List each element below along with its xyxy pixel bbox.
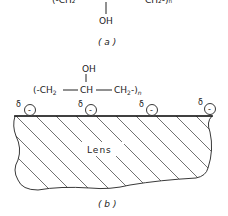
- svg-text:-: -: [208, 105, 211, 114]
- charge-4: δ -: [198, 98, 216, 115]
- caption-b: ( b ): [98, 199, 116, 209]
- formula-a-partial: (-CH₂: [52, 0, 76, 5]
- formula-a-partial-right: CH₂-)ₙ: [145, 0, 172, 5]
- polymer-formula: (-CH2 CH CH2-)n: [33, 85, 142, 96]
- charge-3: δ -: [139, 100, 158, 116]
- surface-charges: δ - δ - δ - δ -: [16, 98, 216, 116]
- formula-open: (-CH2: [33, 85, 57, 96]
- svg-text:-: -: [89, 106, 92, 115]
- svg-text:δ: δ: [16, 100, 21, 109]
- svg-text:-: -: [28, 106, 31, 115]
- svg-text:δ: δ: [139, 100, 144, 109]
- formula-ch: CH: [80, 85, 93, 95]
- formula-close: CH2-)n: [114, 85, 142, 96]
- charge-2: δ -: [78, 100, 97, 116]
- charge-1: δ -: [16, 100, 36, 116]
- polymer-lens-diagram: (-CH₂ CH₂-)ₙ OH ( a ) OH (-CH2 CH CH2-)n: [0, 0, 228, 216]
- panel-a: (-CH₂ CH₂-)ₙ OH ( a ): [52, 0, 172, 47]
- lens-label: Lens: [87, 145, 112, 155]
- svg-text:-: -: [150, 106, 153, 115]
- panel-b: OH (-CH2 CH CH2-)n: [0, 64, 228, 209]
- lens-body: Lens: [0, 100, 228, 200]
- svg-text:δ: δ: [78, 100, 83, 109]
- caption-a: ( a ): [98, 37, 116, 47]
- svg-text:δ: δ: [198, 98, 203, 107]
- oh-a: OH: [99, 16, 113, 26]
- oh-b: OH: [82, 64, 96, 74]
